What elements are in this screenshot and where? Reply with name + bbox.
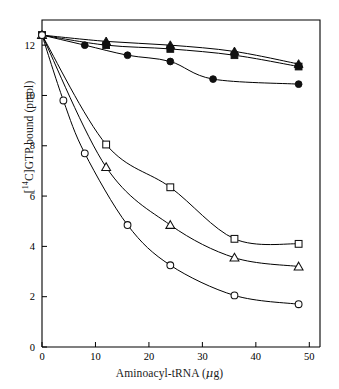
- series-line-open-square: [42, 35, 299, 244]
- data-point-filled-square: [295, 63, 302, 70]
- x-tick-label: 40: [251, 351, 262, 362]
- series-line-open-triangle: [42, 35, 299, 266]
- markers-layer: [38, 31, 303, 308]
- chart-figure: 02468101201020304050 [14C]GTP bound (pmo…: [0, 0, 339, 389]
- x-tick-label: 30: [197, 351, 208, 362]
- data-point-open-triangle: [102, 163, 111, 171]
- tick-labels-layer: 02468101201020304050: [25, 40, 315, 362]
- x-tick-label: 0: [39, 351, 44, 362]
- data-point-filled-circle: [124, 52, 131, 59]
- data-point-open-triangle: [230, 253, 239, 261]
- plot-canvas: 02468101201020304050: [0, 0, 339, 389]
- data-point-open-triangle: [166, 221, 175, 229]
- y-tick-label: 0: [30, 342, 35, 353]
- y-axis-label: [14C]GTP bound (pmol): [21, 37, 35, 237]
- data-point-open-square: [231, 235, 238, 242]
- data-point-open-circle: [124, 222, 131, 229]
- x-tick-label: 20: [144, 351, 155, 362]
- x-axis-label-before: Aminoacyl-tRNA (: [116, 367, 206, 379]
- y-axis-label-isotope: 14: [21, 181, 30, 189]
- y-tick-label: 4: [30, 241, 36, 252]
- data-point-open-square: [295, 240, 302, 247]
- data-point-filled-square: [231, 52, 238, 59]
- data-point-open-square: [167, 184, 174, 191]
- x-tick-label: 50: [304, 351, 315, 362]
- data-point-open-circle: [295, 301, 302, 308]
- data-point-filled-circle: [210, 76, 217, 83]
- data-point-open-circle: [60, 97, 67, 104]
- data-point-open-circle: [167, 262, 174, 269]
- data-point-open-circle: [231, 292, 238, 299]
- y-axis-label-suffix: C]GTP bound (pmol): [23, 81, 35, 181]
- data-point-open-circle: [81, 150, 88, 157]
- x-axis-label: Aminoacyl-tRNA (μg): [0, 366, 339, 380]
- data-point-filled-square: [103, 42, 110, 49]
- data-point-filled-circle: [81, 42, 88, 49]
- y-axis-label-prefix: [: [23, 189, 35, 193]
- x-tick-label: 10: [90, 351, 101, 362]
- data-point-open-circle: [39, 32, 46, 39]
- y-tick-label: 2: [30, 291, 35, 302]
- data-point-open-square: [103, 141, 110, 148]
- axes-layer: [42, 20, 320, 347]
- data-point-filled-square: [167, 46, 174, 53]
- data-point-filled-circle: [295, 81, 302, 88]
- x-axis-label-after: g): [213, 367, 223, 379]
- data-point-filled-circle: [167, 58, 174, 65]
